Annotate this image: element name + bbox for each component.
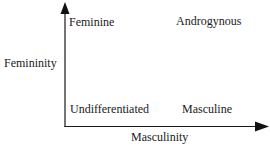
y-axis-arrow-icon <box>61 2 70 14</box>
x-axis-arrow-icon <box>255 122 269 132</box>
quadrant-feminine-label: Feminine <box>69 15 114 29</box>
quadrant-androgynous-label: Androgynous <box>176 14 241 28</box>
x-axis-label: Masculinity <box>131 130 188 144</box>
y-axis-label: Femininity <box>4 56 57 70</box>
quadrant-undifferentiated-label: Undifferentiated <box>70 102 149 116</box>
quadrant-masculine-label: Masculine <box>182 102 232 116</box>
